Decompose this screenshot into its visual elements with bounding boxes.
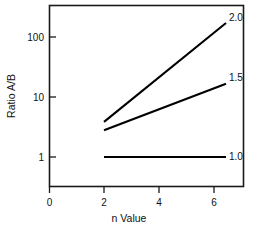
series-label-2-0: 2.0	[229, 12, 243, 23]
y-axis-tick-labels: 100 10 1	[27, 32, 44, 163]
data-series-group	[104, 23, 226, 157]
x-tick-label-6: 6	[211, 197, 217, 208]
x-tick-label-4: 4	[156, 197, 162, 208]
x-tick-label-2: 2	[101, 197, 107, 208]
x-tick-label-0: 0	[47, 197, 53, 208]
y-axis-title: Ratio A/B	[5, 74, 17, 118]
series-label-1-0: 1.0	[229, 151, 243, 162]
x-axis-ticks	[50, 187, 215, 194]
series-labels: 2.0 1.5 1.0	[229, 12, 243, 162]
y-axis-ticks	[50, 37, 57, 157]
y-tick-label-100: 100	[27, 32, 44, 43]
chart-container: 100 10 1 0 2 4 6 2.0 1.5 1.0	[0, 0, 259, 229]
x-axis-title: n Value	[112, 212, 147, 224]
y-tick-label-1: 1	[38, 152, 44, 163]
x-axis-tick-labels: 0 2 4 6	[47, 197, 218, 208]
ratio-vs-n-log-chart: 100 10 1 0 2 4 6 2.0 1.5 1.0	[0, 0, 259, 229]
y-tick-label-10: 10	[33, 92, 45, 103]
series-label-1-5: 1.5	[229, 72, 243, 83]
